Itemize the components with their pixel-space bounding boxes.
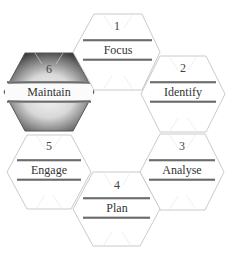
band-bottom-line: [83, 59, 152, 62]
band-top-line: [83, 197, 150, 200]
band-bottom-line: [7, 101, 91, 104]
band-top-line: [83, 39, 152, 42]
step-number: 3: [179, 139, 185, 153]
band-top-line: [7, 81, 91, 84]
band-top-line: [149, 159, 215, 162]
step-label: Plan: [106, 201, 127, 215]
step-number: 4: [114, 178, 120, 192]
band-top-line: [150, 81, 216, 84]
step-number: 2: [180, 61, 186, 75]
step-number: 5: [46, 139, 52, 153]
band-top-line: [17, 159, 81, 162]
step-number: 6: [46, 62, 52, 76]
step-5-engage: 5 Engage: [7, 135, 91, 209]
step-number: 1: [114, 19, 120, 33]
hexagon-cycle-diagram: 6 Maintain 1 Focus 2 Identify 3 Analy: [0, 0, 233, 256]
band-bottom-line: [17, 179, 81, 182]
band-bottom-line: [83, 217, 150, 220]
step-label: Focus: [104, 43, 133, 57]
band-bottom-line: [149, 179, 215, 182]
step-label: Identify: [164, 85, 202, 99]
step-label: Analyse: [162, 163, 201, 177]
band-bottom-line: [150, 101, 216, 104]
step-label: Engage: [31, 163, 67, 177]
step-2-identify: 2 Identify: [141, 56, 225, 132]
step-label: Maintain: [27, 85, 70, 99]
